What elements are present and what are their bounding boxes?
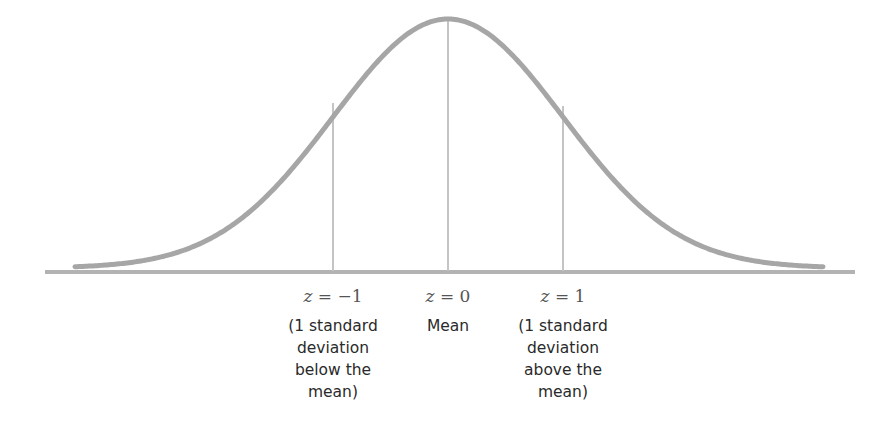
- z-label-plus-1: z = 1: [503, 286, 623, 306]
- description-below-mean: (1 standard deviation below the mean): [268, 315, 398, 403]
- z-variable: z: [426, 286, 435, 306]
- z-value: = 1: [550, 286, 586, 306]
- description-above-mean: (1 standard deviation above the mean): [498, 315, 628, 403]
- z-value: = −1: [312, 286, 362, 306]
- z-value: = 0: [435, 286, 471, 306]
- normal-distribution-diagram: [0, 0, 891, 433]
- z-variable: z: [541, 286, 550, 306]
- description-mean: Mean: [383, 315, 513, 337]
- z-label-minus-1: z = −1: [273, 286, 393, 306]
- z-label-zero: z = 0: [388, 286, 508, 306]
